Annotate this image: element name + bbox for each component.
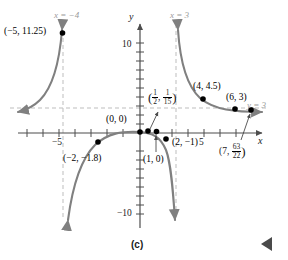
branch-left	[18, 30, 62, 112]
point-neg5	[60, 30, 66, 36]
point-one	[154, 129, 160, 135]
point-label-neg2: (−2, −1.8)	[63, 154, 101, 164]
point-label-one: (1, 0)	[143, 155, 164, 165]
figure-caption: (c)	[131, 240, 143, 250]
point-label-seven: (7, 6322)	[219, 142, 246, 160]
x-axis-name: x	[258, 136, 262, 146]
x-tick-label-5: 5	[199, 138, 204, 148]
point-two	[163, 136, 169, 142]
asymptote-group	[10, 24, 268, 220]
point-half	[145, 128, 151, 134]
point-neg2	[95, 139, 101, 145]
point-four	[200, 96, 206, 102]
point-label-four: (4, 4.5)	[193, 82, 221, 92]
point-label-six: (6, 3)	[226, 93, 247, 103]
vertical-asymptote-left-label: x = −4	[54, 11, 79, 20]
point-label-two: (2, −1)	[172, 138, 198, 148]
point-label-neg5: (−5, 11.25)	[4, 27, 46, 37]
fraction-one-fifteenth: 115	[163, 89, 173, 106]
point-origin	[137, 129, 143, 135]
point-label-half-close: )	[172, 90, 176, 105]
leader-seven	[241, 114, 250, 140]
point-label-seven-prefix: (7,	[219, 146, 232, 156]
y-axis-name: y	[129, 12, 133, 22]
branch-middle	[68, 132, 175, 220]
figure-container: x = −4 x = 3 y = 3 y x −5 10 −10 5 (−5, …	[0, 0, 288, 260]
point-label-seven-close: )	[241, 144, 245, 159]
vertical-asymptote-right-label: x = 3	[170, 11, 189, 20]
play-left-triangle-icon[interactable]	[261, 237, 272, 251]
x-tick-label-neg5: −5	[52, 138, 62, 148]
graph-canvas	[0, 0, 288, 260]
leader-half	[150, 112, 158, 129]
fraction-63-22: 6322	[232, 143, 242, 160]
axes-group	[18, 24, 262, 228]
point-label-origin: (0, 0)	[106, 115, 127, 125]
y-tick-label-neg10: −10	[117, 209, 132, 219]
y-tick-label-10: 10	[122, 40, 132, 50]
point-six	[232, 106, 238, 112]
point-label-half: (12, 115)	[148, 88, 177, 106]
horizontal-asymptote-label: y = 3	[247, 101, 266, 110]
